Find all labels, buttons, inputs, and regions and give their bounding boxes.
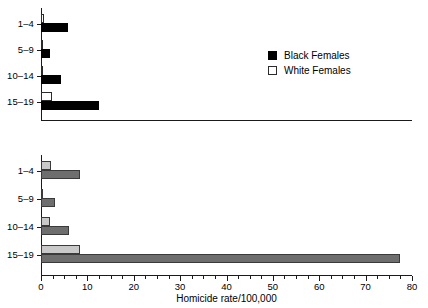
bar-white-males-2: [41, 189, 43, 198]
bar-white-males-3: [41, 217, 50, 226]
x-tick-minor: [238, 276, 239, 279]
x-tick-minor: [111, 276, 112, 279]
category-label-3: 10–14: [7, 71, 34, 81]
x-tick-label-70: 70: [360, 282, 371, 292]
females-plot-area: 1–45–910–1415–19: [41, 8, 412, 120]
x-tick-minor: [157, 276, 158, 279]
x-tick-label-60: 60: [314, 282, 325, 292]
x-tick-minor: [377, 276, 378, 279]
females-chart-panel: 1–45–910–1415–19 Black FemalesWhite Fema…: [0, 0, 428, 140]
x-tick-minor: [192, 276, 193, 279]
category-label-4: 15–19: [7, 97, 34, 107]
legend-swatch-icon: [268, 66, 277, 75]
x-axis-title: Homicide rate/100,000: [41, 294, 412, 304]
bar-white-males-4: [41, 245, 80, 254]
x-tick-label-0: 0: [38, 282, 43, 292]
x-tick-label-10: 10: [82, 282, 93, 292]
bar-black-females-1: [41, 23, 68, 32]
x-tick-minor: [250, 276, 251, 279]
x-tick-minor: [400, 276, 401, 279]
bar-white-females-3: [41, 66, 43, 75]
x-tick-minor: [296, 276, 297, 279]
bar-white-females-2: [41, 40, 43, 49]
x-tick-minor: [261, 276, 262, 279]
category-label-2: 5–9: [18, 45, 34, 55]
category-label-3: 10–14: [7, 222, 34, 232]
bar-white-females-1: [41, 14, 44, 23]
x-tick-minor: [99, 276, 100, 279]
x-tick-minor: [53, 276, 54, 279]
bar-black-males-1: [41, 170, 80, 179]
females-legend: Black FemalesWhite Females: [268, 48, 351, 78]
homicide-rate-figure: 1–45–910–1415–19 Black FemalesWhite Fema…: [0, 0, 428, 308]
bar-white-females-4: [41, 92, 52, 101]
x-tick-label-20: 20: [128, 282, 139, 292]
x-tick-minor: [64, 276, 65, 279]
x-tick-minor: [331, 276, 332, 279]
x-tick-label-50: 50: [268, 282, 279, 292]
x-tick-label-80: 80: [407, 282, 418, 292]
category-label-2: 5–9: [18, 194, 34, 204]
category-label-4: 15–19: [7, 250, 34, 260]
males-chart-panel: 1–45–910–1415–19 01020304050607080 Homic…: [0, 150, 428, 308]
bar-black-males-2: [41, 198, 55, 207]
males-plot-area: 1–45–910–1415–19: [41, 155, 412, 275]
x-tick-minor: [308, 276, 309, 279]
bar-white-males-1: [41, 161, 51, 170]
x-tick-minor: [215, 276, 216, 279]
x-tick-minor: [122, 276, 123, 279]
bar-black-females-2: [41, 49, 50, 58]
x-tick-minor: [145, 276, 146, 279]
legend-item[interactable]: Black Females: [268, 48, 351, 63]
category-label-1: 1–4: [18, 166, 34, 176]
bar-black-males-3: [41, 226, 69, 235]
x-tick-label-40: 40: [221, 282, 232, 292]
x-tick-minor: [203, 276, 204, 279]
x-tick-minor: [76, 276, 77, 279]
bar-black-males-4: [41, 254, 400, 263]
legend-swatch-icon: [268, 51, 277, 60]
bar-black-females-4: [41, 101, 99, 110]
x-tick-minor: [342, 276, 343, 279]
bar-black-females-3: [41, 75, 61, 84]
females-x-axis: [41, 120, 412, 121]
legend-item[interactable]: White Females: [268, 63, 351, 78]
x-tick-minor: [284, 276, 285, 279]
x-tick-minor: [169, 276, 170, 279]
x-tick-minor: [354, 276, 355, 279]
x-tick-minor: [389, 276, 390, 279]
category-label-1: 1–4: [18, 19, 34, 29]
x-tick-label-30: 30: [175, 282, 186, 292]
legend-label: Black Females: [284, 51, 350, 61]
legend-label: White Females: [284, 66, 351, 76]
